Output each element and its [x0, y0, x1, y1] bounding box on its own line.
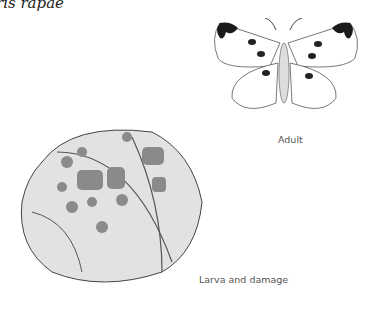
larva-caption: Larva and damage — [199, 274, 288, 285]
species-title: ris rapae — [0, 0, 64, 12]
butterfly-illustration — [210, 18, 370, 128]
cabbage-illustration — [12, 122, 212, 287]
adult-caption: Adult — [278, 134, 303, 145]
